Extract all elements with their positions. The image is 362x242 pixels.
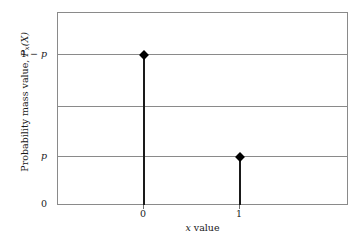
- stem-x1: [239, 156, 241, 205]
- xtick-label-0: 0: [128, 209, 158, 219]
- y-axis-title: Probability mass value, Px(X): [20, 14, 32, 189]
- y-axis-title-suffix: (X): [19, 32, 30, 46]
- y-axis-title-subscript: x: [23, 46, 31, 50]
- ytick-label-p: p: [41, 151, 47, 161]
- x-axis-title-rest: value: [191, 222, 220, 233]
- plot-area: [57, 12, 348, 205]
- gridline-p: [58, 156, 347, 157]
- chart-page: 1 − p p 0 0 1 Probability mass value, Px…: [0, 0, 362, 242]
- ytick-one-minus-p-var: p: [41, 48, 47, 59]
- xtick-label-1: 1: [224, 209, 254, 219]
- gridline-middle: [58, 106, 347, 107]
- y-axis-title-p: P: [19, 50, 30, 56]
- y-axis-title-prefix: Probability mass value,: [19, 57, 30, 172]
- x-axis-title: x value: [57, 223, 348, 233]
- data-point-x1: [235, 152, 245, 162]
- data-point-x0: [139, 50, 149, 60]
- gridline-one-minus-p: [58, 54, 347, 55]
- stem-x0: [143, 54, 145, 205]
- ytick-label-zero: 0: [41, 199, 47, 209]
